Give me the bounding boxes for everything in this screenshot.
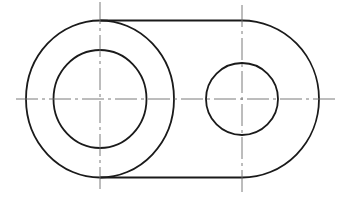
technical-drawing — [0, 0, 359, 221]
